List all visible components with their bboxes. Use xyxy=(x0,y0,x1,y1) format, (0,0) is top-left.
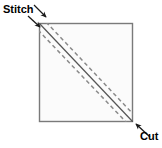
diagram-canvas: Stitch Cut xyxy=(0,0,162,148)
cut-label: Cut xyxy=(140,130,158,142)
stitch-arrow-lower xyxy=(28,16,40,27)
stitch-arrow-upper xyxy=(34,5,46,17)
stitch-label: Stitch xyxy=(3,3,34,15)
sewing-diagram xyxy=(0,0,162,148)
